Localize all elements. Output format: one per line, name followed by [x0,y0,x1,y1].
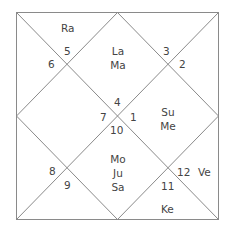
house-10-sign: 7 [100,111,107,123]
planet-ju: Ju [105,166,131,180]
planet-sa: Sa [105,180,131,194]
house-1-planets: La Ma [105,44,131,72]
house-4-sign: 1 [130,111,137,123]
planet-ra: Ra [61,22,75,34]
planet-ve: Ve [198,166,211,178]
house-7-sign: 10 [110,124,123,136]
house-12-sign: 5 [64,45,71,57]
planet-la: La [105,44,131,58]
chart-lines [0,0,229,236]
planet-mo: Mo [105,152,131,166]
planet-me: Me [155,119,181,133]
house-11-sign: 6 [48,58,55,70]
house-1-sign: 4 [114,96,121,108]
house-4-planets: Su Me [155,105,181,133]
planet-ma: Ma [105,58,131,72]
house-5-sign: 12 [177,166,190,178]
house-2-sign: 3 [163,45,170,57]
house-9-sign: 8 [49,165,56,177]
house-8-sign: 9 [64,179,71,191]
house-6-sign: 11 [161,180,174,192]
house-7-planets: Mo Ju Sa [105,152,131,194]
planet-su: Su [155,105,181,119]
planet-ke: Ke [161,203,174,215]
house-3-sign: 2 [179,58,186,70]
